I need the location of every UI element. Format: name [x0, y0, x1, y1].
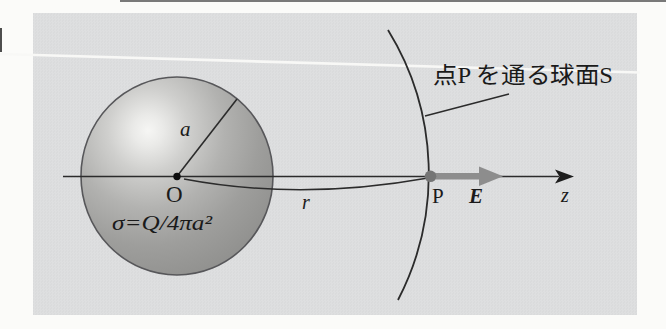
origin-label: O [166, 182, 183, 207]
gaussian-surface-arc [388, 30, 429, 300]
radius-label: a [180, 117, 191, 141]
diagram-canvas: 点P を通る球面S a O σ=Q/4πa² r P E z [0, 0, 666, 329]
charge-density-label: σ=Q/4πa² [112, 211, 213, 235]
surface-caption: 点P を通る球面S [433, 63, 613, 88]
distance-label: r [302, 191, 310, 213]
z-axis-label: z [560, 184, 569, 206]
origin-dot [173, 173, 180, 180]
figure-scan: 点P を通る球面S a O σ=Q/4πa² r P E z [0, 0, 666, 329]
surface-label-leader-line [425, 94, 509, 116]
point-p-label: P [432, 184, 444, 208]
e-field-label: E [468, 184, 483, 208]
point-p-dot [425, 171, 437, 183]
